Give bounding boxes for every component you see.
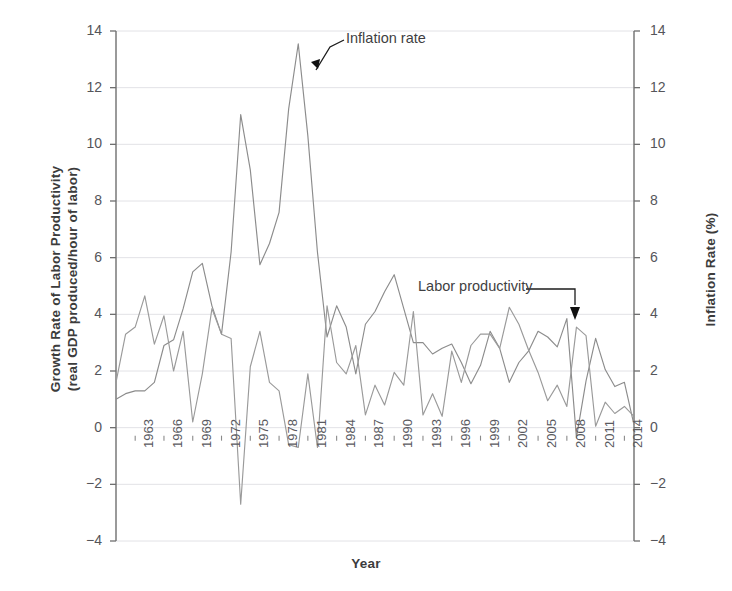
inflation-arrowhead: [311, 59, 320, 69]
x-tick-label: 2002: [515, 419, 530, 448]
y-tick-label-left: 2: [62, 362, 102, 378]
x-tick-label: 2008: [573, 419, 588, 448]
x-tick-label: 1987: [371, 419, 386, 448]
x-tick-label: 1963: [141, 419, 156, 448]
inflation-leader-line: [316, 40, 344, 70]
chart-figure: Growth Rate of Labor Productivity (real …: [0, 0, 732, 591]
x-tick-label: 1975: [256, 419, 271, 448]
y-tick-label-right: 8: [650, 192, 690, 208]
y-tick-label-right: 10: [650, 135, 690, 151]
x-tick-label: 1996: [458, 419, 473, 448]
x-tick-label: 1984: [343, 419, 358, 448]
y-tick-label-left: −2: [62, 475, 102, 491]
annotation-inflation-rate: Inflation rate: [346, 30, 426, 46]
y-tick-label-right: 4: [650, 305, 690, 321]
y-tick-label-left: 4: [62, 305, 102, 321]
annotation-labor-productivity: Labor productivity: [418, 278, 532, 294]
series-line-labor-productivity: [116, 296, 634, 504]
x-tick-label: 1969: [199, 419, 214, 448]
x-tick-label: 1981: [314, 419, 329, 448]
x-tick-label: 1966: [170, 419, 185, 448]
x-tick-label: 2014: [630, 419, 645, 448]
x-tick-label: 2011: [602, 420, 617, 448]
y-tick-label-left: 8: [62, 192, 102, 208]
y-tick-label-left: 10: [62, 135, 102, 151]
x-tick-label: 1990: [400, 419, 415, 448]
x-tick-label: 1978: [285, 419, 300, 448]
y-tick-label-left: 14: [62, 22, 102, 38]
plot-area: [0, 0, 732, 591]
productivity-arrowhead: [570, 307, 580, 320]
series-line-inflation-rate: [116, 44, 634, 438]
y-tick-label-right: 2: [650, 362, 690, 378]
gridlines: [116, 31, 634, 541]
productivity-leader-line: [526, 289, 575, 305]
y-tick-label-right: 6: [650, 249, 690, 265]
y-tick-label-left: 12: [62, 79, 102, 95]
y-tick-label-right: 12: [650, 79, 690, 95]
y-tick-label-right: −2: [650, 475, 690, 491]
y-tick-label-left: −4: [62, 532, 102, 548]
y-tick-label-left: 0: [62, 419, 102, 435]
x-tick-label: 1993: [429, 419, 444, 448]
x-tick-label: 1972: [228, 419, 243, 448]
y-tick-label-right: −4: [650, 532, 690, 548]
x-tick-label: 1999: [487, 419, 502, 448]
x-tick-label: 2005: [544, 419, 559, 448]
y-tick-label-left: 6: [62, 249, 102, 265]
y-tick-label-right: 14: [650, 22, 690, 38]
y-tick-label-right: 0: [650, 419, 690, 435]
